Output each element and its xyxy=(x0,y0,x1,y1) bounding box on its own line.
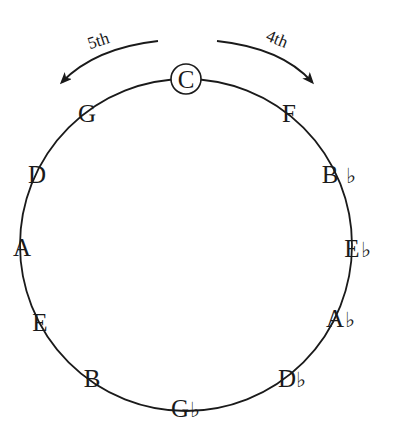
note-g: G xyxy=(78,100,96,127)
fifth-direction-arrow xyxy=(62,41,158,82)
main-circle xyxy=(20,79,352,411)
flat-symbol: ♭ xyxy=(345,308,355,332)
fifth-label: 5th xyxy=(85,28,112,53)
flat-symbol: ♭ xyxy=(346,164,356,188)
flat-symbol: ♭ xyxy=(296,368,306,392)
note-e-flat-letter: E xyxy=(344,235,359,262)
note-a-flat: A ♭ xyxy=(326,305,355,332)
flat-symbol: ♭ xyxy=(361,238,371,262)
note-e-flat: E ♭ xyxy=(344,235,371,262)
note-e: E xyxy=(32,309,47,336)
flat-symbol: ♭ xyxy=(190,398,200,422)
note-f: F xyxy=(282,100,296,127)
circle-of-fifths-diagram: 5th 4th C F B ♭ E ♭ A ♭ D ♭ G ♭ B E A D … xyxy=(0,0,394,437)
fourth-direction-arrow xyxy=(217,41,312,82)
note-d: D xyxy=(28,161,46,188)
note-g-flat-letter: G xyxy=(171,395,189,422)
fourth-label: 4th xyxy=(263,26,291,52)
note-b-flat: B ♭ xyxy=(322,161,356,188)
note-a-flat-letter: A xyxy=(326,305,344,332)
note-d-flat-letter: D xyxy=(278,365,296,392)
note-b: B xyxy=(84,365,101,392)
note-d-flat: D ♭ xyxy=(278,365,306,392)
note-c: C xyxy=(178,66,195,93)
note-g-flat: G ♭ xyxy=(171,395,200,422)
note-a: A xyxy=(13,234,31,261)
note-b-flat-letter: B xyxy=(322,161,339,188)
